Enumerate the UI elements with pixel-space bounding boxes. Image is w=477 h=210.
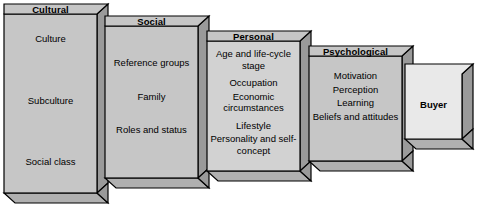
factor-title-social: Social — [104, 16, 199, 27]
factor-items-psychological: Motivation Perception Learning Beliefs a… — [308, 70, 403, 122]
factor-title-psychological: Psychological — [308, 46, 403, 57]
factor-item: Reference groups — [104, 57, 199, 69]
factor-item: Age and life-cycle stage — [206, 48, 301, 71]
factor-item: Family — [104, 91, 199, 103]
factor-box-personal: Personal Age and life-cycle stage Occupa… — [206, 30, 314, 183]
factor-item: Economic circumstances — [206, 91, 301, 114]
factor-box-psychological: Psychological Motivation Perception Lear… — [308, 45, 416, 173]
factor-item: Culture — [3, 33, 98, 45]
factor-items-personal: Age and life-cycle stage Occupation Econ… — [206, 48, 301, 156]
factor-item: Lifestyle — [206, 120, 301, 132]
factor-item: Roles and status — [104, 124, 199, 136]
factor-title-cultural: Cultural — [3, 4, 98, 15]
consumer-behavior-factors-diagram: Cultural Culture Subculture Social class… — [0, 0, 477, 210]
factor-item: Subculture — [3, 95, 98, 107]
factor-box-social: Social Reference groups Family Roles and… — [104, 15, 212, 191]
factor-title-buyer: Buyer — [404, 99, 463, 110]
factor-item: Occupation — [206, 77, 301, 89]
factor-item: Social class — [3, 156, 98, 168]
factor-item: Perception — [308, 84, 403, 96]
factor-item: Learning — [308, 97, 403, 109]
factor-items-social: Reference groups Family Roles and status — [104, 57, 199, 136]
factor-item: Beliefs and attitudes — [308, 111, 403, 123]
factor-box-cultural: Cultural Culture Subculture Social class — [3, 3, 111, 206]
factor-title-personal: Personal — [206, 31, 301, 42]
factor-item: Motivation — [308, 70, 403, 82]
factor-box-buyer: Buyer — [404, 63, 476, 151]
factor-items-cultural: Culture Subculture Social class — [3, 33, 98, 168]
factor-item: Personality and self-concept — [206, 133, 301, 156]
